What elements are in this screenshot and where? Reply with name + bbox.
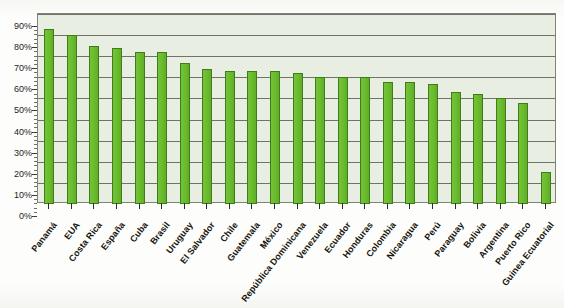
x-axis-tick bbox=[545, 203, 546, 209]
bar bbox=[383, 82, 393, 204]
bar bbox=[405, 82, 415, 204]
bar bbox=[157, 52, 167, 204]
x-axis-tick bbox=[139, 203, 140, 209]
x-axis-tick bbox=[319, 203, 320, 209]
bar bbox=[225, 71, 235, 204]
x-axis-tick bbox=[522, 203, 523, 209]
x-axis-tick-label: Cuba bbox=[127, 220, 149, 244]
gridline bbox=[38, 14, 555, 15]
x-axis-tick bbox=[455, 203, 456, 209]
bar bbox=[541, 172, 551, 204]
clipped-chart-title bbox=[196, 0, 366, 5]
x-axis-tick bbox=[477, 203, 478, 209]
x-axis-tick bbox=[274, 203, 275, 209]
x-axis-tick bbox=[387, 203, 388, 209]
gridline bbox=[38, 35, 555, 36]
x-axis-tick bbox=[364, 203, 365, 209]
x-axis-tick bbox=[116, 203, 117, 209]
x-axis-tick bbox=[500, 203, 501, 209]
y-axis-tick-label: 70% bbox=[14, 63, 32, 73]
bar bbox=[135, 52, 145, 204]
y-axis-tick-label: 10% bbox=[14, 190, 32, 200]
y-axis-tick-label: 50% bbox=[14, 105, 32, 115]
y-axis-tick-label: 40% bbox=[14, 127, 32, 137]
bar bbox=[360, 77, 370, 204]
bar bbox=[518, 103, 528, 204]
bar bbox=[247, 71, 257, 204]
bar bbox=[67, 35, 77, 204]
x-axis-tick bbox=[71, 203, 72, 209]
x-axis: PanamáEUACosta RicaEspañaCubaBrasilUrugu… bbox=[37, 203, 556, 308]
x-axis-tick bbox=[229, 203, 230, 209]
bar bbox=[473, 94, 483, 204]
y-axis-tick-label: 20% bbox=[14, 169, 32, 179]
bar bbox=[451, 92, 461, 204]
plot-area bbox=[37, 13, 556, 203]
y-axis-tick-label: 80% bbox=[14, 42, 32, 52]
bar bbox=[180, 63, 190, 204]
bar bbox=[496, 98, 506, 204]
x-axis-tick bbox=[48, 203, 49, 209]
y-axis-tick-label: 90% bbox=[14, 21, 32, 31]
bar bbox=[44, 29, 54, 204]
bar bbox=[270, 71, 280, 204]
x-axis-tick bbox=[161, 203, 162, 209]
bar bbox=[315, 77, 325, 204]
y-axis-tick-label: 30% bbox=[14, 148, 32, 158]
x-axis-tick bbox=[409, 203, 410, 209]
x-axis-tick-label: Panamá bbox=[30, 220, 60, 254]
bar bbox=[112, 48, 122, 204]
x-axis-tick bbox=[93, 203, 94, 209]
y-axis-tick-label: 60% bbox=[14, 84, 32, 94]
chart-page: 90%80%70%60%50%40%30%20%10%0% PanamáEUAC… bbox=[0, 0, 564, 308]
x-axis-tick bbox=[342, 203, 343, 209]
bar bbox=[89, 46, 99, 204]
y-axis-tick-label: 0% bbox=[19, 211, 32, 221]
x-axis-tick bbox=[251, 203, 252, 209]
y-axis: 90%80%70%60%50%40%30%20%10%0% bbox=[0, 13, 37, 204]
bar bbox=[293, 73, 303, 204]
x-axis-tick-label: Perú bbox=[422, 220, 442, 242]
x-axis-tick-label: EUA bbox=[62, 220, 82, 241]
x-axis-tick bbox=[297, 203, 298, 209]
bar bbox=[202, 69, 212, 204]
x-axis-tick bbox=[206, 203, 207, 209]
bar bbox=[428, 84, 438, 204]
x-axis-tick bbox=[184, 203, 185, 209]
x-axis-tick bbox=[432, 203, 433, 209]
bar bbox=[338, 77, 348, 204]
